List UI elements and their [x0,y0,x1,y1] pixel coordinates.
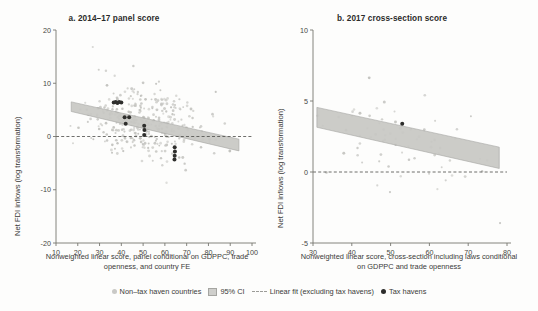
dashed-line-icon [252,291,267,292]
svg-text:-20: -20 [41,239,51,248]
panel-b-x-axis-label: Nonweighted linear score, cross-section … [296,252,522,271]
legend-item-tax-havens: Tax havens [381,287,426,296]
panel-a-plot: -20-1001020102030405060708090100 [0,0,269,285]
dark-dot-icon [381,289,386,294]
legend-item-non-tax-haven: Non–tax haven countries [112,287,202,296]
svg-text:10: 10 [43,79,51,88]
panel-b-y-axis-label: Net FDI inflows (log transformation) [276,109,285,228]
svg-text:-5: -5 [302,239,308,248]
legend: Non–tax haven countries 95% CI Linear fi… [0,287,538,296]
svg-text:0: 0 [47,132,51,141]
svg-text:0: 0 [304,168,308,177]
legend-item-ci: 95% CI [208,287,244,296]
svg-text:-10: -10 [41,185,51,194]
legend-label: Tax havens [389,287,426,296]
panel-a-x-axis-label: Nonweighted linear score, panel conditio… [42,252,252,271]
svg-text:5: 5 [304,97,308,106]
panel-a-y-axis-label: Net FDI inflows (log transformation) [13,117,22,236]
light-dot-icon [112,289,117,294]
legend-label: 95% CI [220,287,244,296]
svg-text:10: 10 [300,26,308,35]
svg-text:20: 20 [43,26,51,35]
band-swatch-icon [208,288,217,296]
legend-label: Non–tax haven countries [120,287,202,296]
panel-b-plot: -50510304050607080 [262,0,538,285]
figure-container: a. 2014–17 panel score -20-1001020102030… [0,0,538,311]
legend-item-linear-fit: Linear fit (excluding tax havens) [252,287,374,296]
panel-a: a. 2014–17 panel score -20-1001020102030… [0,0,269,285]
legend-label: Linear fit (excluding tax havens) [270,287,374,296]
panel-b: b. 2017 cross-section score -50510304050… [262,0,538,285]
